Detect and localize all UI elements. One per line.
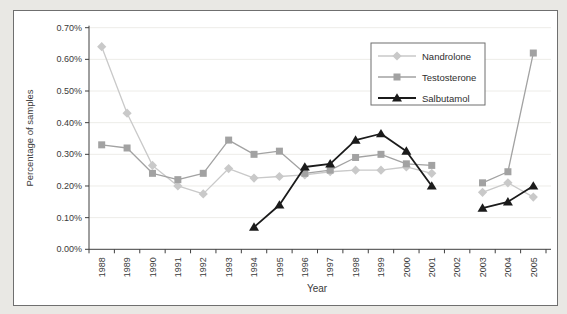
x-tick-label: 1999	[376, 257, 386, 277]
y-tick-label: 0.70%	[56, 23, 82, 33]
data-point-nandrolone	[478, 188, 487, 197]
data-point-nandrolone	[427, 169, 436, 178]
data-point-salbutamol	[401, 146, 411, 154]
x-tick-label: 1991	[173, 257, 183, 277]
figure-background: 0.00%0.10%0.20%0.30%0.40%0.50%0.60%0.70%…	[0, 0, 567, 314]
y-tick-label: 0.30%	[56, 149, 82, 159]
x-tick-label: 2003	[478, 257, 488, 277]
x-tick-label: 1997	[325, 257, 335, 277]
data-point-nandrolone	[97, 42, 106, 51]
data-point-nandrolone	[275, 172, 284, 181]
line-chart: 0.00%0.10%0.20%0.30%0.40%0.50%0.60%0.70%…	[14, 11, 557, 305]
data-point-testosterone	[504, 168, 511, 175]
data-point-testosterone	[377, 151, 384, 158]
x-tick-label: 1996	[300, 257, 310, 277]
data-point-testosterone	[124, 144, 131, 151]
x-tick-label: 1998	[351, 257, 361, 277]
x-tick-label: 1990	[148, 257, 158, 277]
x-tick-label: 2000	[402, 257, 412, 277]
data-point-testosterone	[174, 176, 181, 183]
data-point-testosterone	[530, 50, 537, 57]
data-point-testosterone	[479, 179, 486, 186]
data-point-salbutamol	[274, 200, 284, 208]
x-tick-label: 1989	[122, 257, 132, 277]
data-point-nandrolone	[351, 166, 360, 175]
x-tick-label: 2004	[503, 257, 513, 277]
data-point-nandrolone	[249, 173, 258, 182]
data-point-testosterone	[403, 160, 410, 167]
data-point-testosterone	[98, 141, 105, 148]
legend-square-icon	[394, 74, 401, 81]
data-point-testosterone	[428, 162, 435, 169]
legend-label-salbutamol: Salbutamol	[422, 93, 470, 104]
data-point-testosterone	[352, 154, 359, 161]
y-tick-label: 0.20%	[56, 181, 82, 191]
data-point-testosterone	[327, 167, 334, 174]
x-axis-title: Year	[307, 283, 328, 294]
y-tick-label: 0.60%	[56, 54, 82, 64]
x-tick-label: 1993	[224, 257, 234, 277]
x-tick-label: 2001	[427, 257, 437, 277]
data-point-testosterone	[149, 170, 156, 177]
y-tick-label: 0.40%	[56, 118, 82, 128]
y-tick-label: 0.50%	[56, 86, 82, 96]
data-point-nandrolone	[529, 192, 538, 201]
legend-label-testosterone: Testosterone	[422, 72, 476, 83]
y-tick-label: 0.00%	[56, 244, 82, 254]
data-point-testosterone	[225, 137, 232, 144]
data-point-salbutamol	[528, 181, 538, 189]
series-line-testosterone	[483, 53, 534, 183]
x-tick-label: 2002	[452, 257, 462, 277]
data-point-testosterone	[251, 151, 258, 158]
legend-label-nandrolone: Nandrolone	[422, 51, 471, 62]
y-tick-label: 0.10%	[56, 213, 82, 223]
data-point-testosterone	[200, 170, 207, 177]
data-point-nandrolone	[122, 109, 131, 118]
data-point-testosterone	[276, 148, 283, 155]
data-point-salbutamol	[503, 197, 513, 205]
x-tick-label: 1995	[275, 257, 285, 277]
x-tick-label: 1992	[198, 257, 208, 277]
x-tick-label: 2005	[529, 257, 539, 277]
y-axis-title: Percentage of samples	[24, 89, 35, 186]
data-point-salbutamol	[376, 129, 386, 137]
plot-area: 0.00%0.10%0.20%0.30%0.40%0.50%0.60%0.70%…	[56, 23, 551, 278]
x-tick-label: 1988	[97, 257, 107, 277]
chart-frame: 0.00%0.10%0.20%0.30%0.40%0.50%0.60%0.70%…	[13, 10, 558, 306]
data-point-nandrolone	[376, 166, 385, 175]
x-tick-label: 1994	[249, 257, 259, 277]
